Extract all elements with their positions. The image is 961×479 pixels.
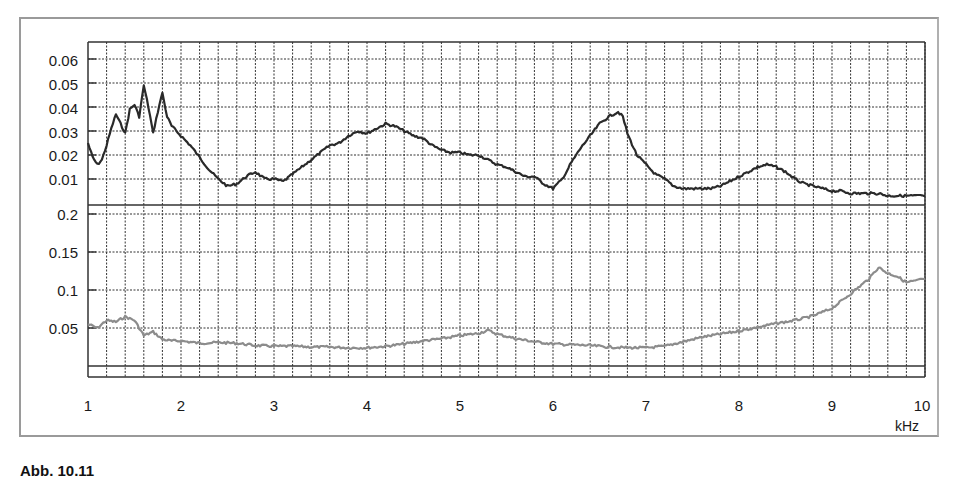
y-tick-label: 0.1: [18, 283, 78, 299]
y-tick-label: 0.2: [18, 207, 78, 223]
x-tick-label: 5: [445, 398, 475, 414]
grid-lines: [88, 42, 925, 377]
y-tick-label: 0.05: [18, 77, 78, 93]
x-tick-label: 9: [817, 398, 847, 414]
x-tick-label: 6: [538, 398, 568, 414]
x-tick-label: 7: [631, 398, 661, 414]
x-tick-label: 10: [907, 398, 937, 414]
y-tick-label: 0.03: [18, 125, 78, 141]
y-tick-label: 0.02: [18, 148, 78, 164]
upper-spectrum-line: [88, 86, 925, 198]
x-tick-label: 2: [166, 398, 196, 414]
x-tick-label: 8: [724, 398, 754, 414]
y-tick-label: 0.05: [18, 321, 78, 337]
y-tick-label: 0.15: [18, 245, 78, 261]
y-tick-label: 0.06: [18, 53, 78, 69]
x-tick-label: 4: [352, 398, 382, 414]
y-tick-label: 0.01: [18, 172, 78, 188]
figure-caption: Abb. 10.11: [20, 462, 94, 479]
x-tick-label: 1: [73, 398, 103, 414]
x-tick-label: 3: [259, 398, 289, 414]
y-tick-label: 0.04: [18, 101, 78, 117]
x-axis-unit-label: kHz: [895, 418, 919, 434]
lower-spectrum-line: [88, 268, 925, 349]
